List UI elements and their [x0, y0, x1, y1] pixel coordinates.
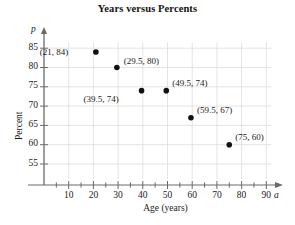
point-label: (75, 60)	[235, 132, 264, 142]
y-tick-label: 80	[10, 61, 38, 71]
point-label: (21, 84)	[40, 47, 69, 57]
y-tick-label: 55	[10, 158, 38, 168]
y-tick-label: 85	[10, 42, 38, 52]
y-tick-label: 75	[10, 80, 38, 90]
scatter-plot-figure: Years versus Percents 55606570758085 102…	[0, 0, 295, 225]
y-axis-title: Percent	[14, 112, 24, 141]
x-axis-symbol: a	[274, 190, 279, 200]
y-axis-symbol: p	[31, 24, 36, 34]
point-label: (29.5, 80)	[124, 56, 159, 66]
x-axis-title: Age (years)	[18, 203, 295, 213]
point-label: (59.5, 67)	[197, 105, 232, 115]
y-tick-label: 70	[10, 100, 38, 110]
point-label: (39.5, 74)	[84, 94, 119, 104]
axis-ticks	[40, 48, 266, 189]
point-label: (49.5, 74)	[172, 78, 207, 88]
